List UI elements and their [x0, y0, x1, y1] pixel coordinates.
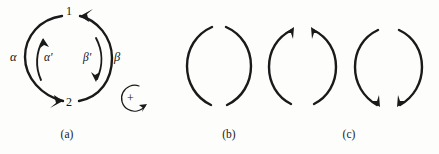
panel-a-orientation-arrowhead: [139, 104, 147, 112]
caption-a: (a): [55, 128, 79, 140]
panel-c-graphic: [355, 30, 422, 107]
panel-c-right-arc: [399, 30, 422, 105]
panel-middle-right-arc: [313, 30, 336, 104]
panel-middle-left-arc: [269, 30, 292, 104]
panel-a-label-beta-prime: β′: [83, 51, 91, 63]
panel-a-node-label-2: 2: [66, 95, 72, 110]
panel-middle-left-arrowhead-up: [285, 27, 294, 39]
panel-b-graphic: [187, 27, 251, 105]
caption-c: (c): [337, 128, 361, 140]
panel-a-label-alpha: α: [10, 50, 17, 65]
panel-middle-right-arrowhead-up: [311, 27, 320, 39]
panel-a-positive-orientation-symbol: +: [127, 91, 134, 106]
panel-b-left-arc: [187, 27, 212, 105]
panel-a-node-label-1: 1: [66, 4, 72, 19]
panel-a-label-alpha-prime: α′: [44, 51, 53, 63]
panel-b-right-arc: [226, 27, 251, 105]
panel-c-left-arc: [355, 30, 378, 105]
panel-a-label-beta: β: [114, 50, 120, 65]
caption-b: (b): [217, 128, 241, 140]
figure-container: .stroke-hv { fill:none; stroke:#1a1a1a; …: [0, 0, 439, 154]
panel-middle-graphic: [269, 27, 336, 104]
